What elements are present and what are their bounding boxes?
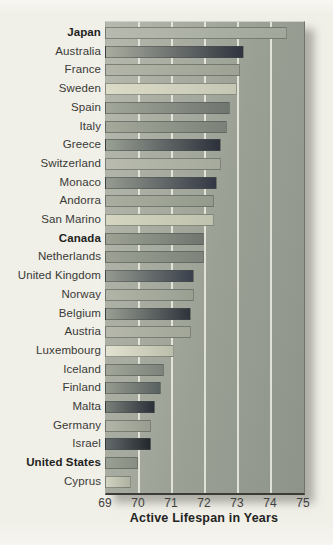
gridline <box>237 22 239 493</box>
bar <box>105 270 194 282</box>
country-label: Luxembourg <box>0 343 101 358</box>
bar <box>105 457 138 469</box>
bar <box>105 27 287 39</box>
bar <box>105 308 191 320</box>
country-label: Netherlands <box>0 249 101 264</box>
x-tick-label: 75 <box>290 496 316 510</box>
bar <box>105 289 194 301</box>
bar <box>105 251 204 263</box>
x-tick-label: 72 <box>191 496 217 510</box>
bar <box>105 382 161 394</box>
bar <box>105 214 214 226</box>
bar <box>105 139 221 151</box>
x-tick-label: 69 <box>92 496 118 510</box>
x-tick-label: 74 <box>257 496 283 510</box>
country-label: Belgium <box>0 306 101 321</box>
bar <box>105 102 230 114</box>
bar <box>105 364 164 376</box>
country-label: Sweden <box>0 81 101 96</box>
country-label: United Kingdom <box>0 268 101 283</box>
country-label: Andorra <box>0 193 101 208</box>
country-label: France <box>0 62 101 77</box>
country-label: United States <box>0 455 101 470</box>
country-label: Spain <box>0 100 101 115</box>
country-label: Monaco <box>0 175 101 190</box>
bar <box>105 326 191 338</box>
country-label: Cyprus <box>0 474 101 489</box>
bar <box>105 401 155 413</box>
bar <box>105 438 151 450</box>
bar <box>105 345 174 357</box>
country-label: Israel <box>0 436 101 451</box>
bar <box>105 64 240 76</box>
gridline <box>270 22 272 493</box>
country-label: Iceland <box>0 362 101 377</box>
x-tick-label: 70 <box>125 496 151 510</box>
country-label: Germany <box>0 418 101 433</box>
bar <box>105 195 214 207</box>
country-label: Canada <box>0 231 101 246</box>
bar <box>105 158 221 170</box>
country-label: Italy <box>0 119 101 134</box>
bar <box>105 420 151 432</box>
bar <box>105 177 217 189</box>
country-label: Australia <box>0 44 101 59</box>
x-tick-label: 73 <box>224 496 250 510</box>
x-axis-title: Active Lifespan in Years <box>95 511 313 527</box>
bar <box>105 233 204 245</box>
country-label: Switzerland <box>0 156 101 171</box>
x-tick-label: 71 <box>158 496 184 510</box>
bar <box>105 476 131 488</box>
country-label: Malta <box>0 399 101 414</box>
figure-page: JapanAustraliaFranceSwedenSpainItalyGree… <box>0 0 333 545</box>
country-label: Norway <box>0 287 101 302</box>
country-label: Greece <box>0 137 101 152</box>
bar <box>105 83 237 95</box>
bar <box>105 46 244 58</box>
country-label: San Marino <box>0 212 101 227</box>
country-label: Japan <box>0 25 101 40</box>
country-label: Austria <box>0 324 101 339</box>
bar <box>105 121 227 133</box>
country-label: Finland <box>0 380 101 395</box>
